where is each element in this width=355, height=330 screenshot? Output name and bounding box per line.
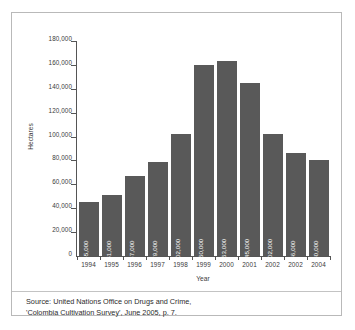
- bar-value-label: 79,000: [151, 240, 158, 259]
- bar-slot: 51,000: [100, 41, 123, 256]
- bar-slot: 79,000: [146, 41, 169, 256]
- x-axis-tick-label: 1994: [77, 261, 100, 268]
- x-axis-tick-label: 1999: [192, 261, 215, 268]
- bar-slot: 102,000: [261, 41, 284, 256]
- bar[interactable]: 163,000: [217, 61, 237, 256]
- bar-slot: 163,000: [215, 41, 238, 256]
- x-axis-tick-label: 2004: [307, 261, 330, 268]
- bar[interactable]: 160,000: [194, 65, 214, 256]
- bar-value-label: 45,000: [82, 240, 89, 259]
- bar-slot: 45,000: [77, 41, 100, 256]
- y-axis-tick-mark: [71, 89, 76, 90]
- y-axis-tick-label: 80,000: [52, 154, 72, 161]
- bar[interactable]: 86,000: [286, 153, 306, 256]
- y-axis-tick-mark: [71, 113, 76, 114]
- y-axis-tick-mark: [71, 41, 76, 42]
- y-axis-tick-label: 0: [68, 250, 72, 257]
- bar-value-label: 86,000: [289, 240, 296, 259]
- bar-value-label: 160,000: [197, 239, 204, 262]
- x-axis-tick-label: 2002: [284, 261, 307, 268]
- y-axis-tick-label: 60,000: [52, 178, 72, 185]
- x-axis-tick-mark: [330, 256, 331, 260]
- x-axis-tick-mark: [192, 256, 193, 260]
- bar-slot: 67,000: [123, 41, 146, 256]
- y-axis-tick-label: 120,000: [49, 107, 72, 114]
- source-note: Source: United Nations Office on Drugs a…: [26, 296, 326, 318]
- x-axis-tick-label: 2000: [215, 261, 238, 268]
- bar-value-label: 67,000: [128, 240, 135, 259]
- x-axis-tick-mark: [261, 256, 262, 260]
- bar[interactable]: 67,000: [125, 176, 145, 256]
- bar-slot: 80,000: [307, 41, 330, 256]
- y-axis-tick-label: 160,000: [49, 59, 72, 66]
- bar-series: 45,00051,00067,00079,000102,000160,00016…: [77, 41, 330, 256]
- x-axis-tick-mark: [238, 256, 239, 260]
- y-axis-tick-mark: [71, 65, 76, 66]
- y-axis-tick-label: 40,000: [52, 202, 72, 209]
- x-axis-tick-mark: [169, 256, 170, 260]
- x-axis-tick-mark: [146, 256, 147, 260]
- bar[interactable]: 102,000: [171, 134, 191, 256]
- bar-slot: 102,000: [169, 41, 192, 256]
- bar-value-label: 102,000: [266, 239, 273, 262]
- bar[interactable]: 102,000: [263, 134, 283, 256]
- y-axis-tick-label: 100,000: [49, 131, 72, 138]
- bar-slot: 145,000: [238, 41, 261, 256]
- source-line-2: 'Colombia Cultivation Survey', June 2005…: [26, 307, 326, 318]
- y-axis-tick-mark: [71, 208, 76, 209]
- y-axis-tick-mark: [71, 160, 76, 161]
- source-line-1: Source: United Nations Office on Drugs a…: [26, 296, 326, 307]
- bar-value-label: 80,000: [312, 240, 319, 259]
- x-axis-tick-label: 2002: [261, 261, 284, 268]
- y-axis-title: Hectares: [27, 107, 34, 167]
- x-axis-tick-mark: [77, 256, 78, 260]
- bar[interactable]: 80,000: [309, 160, 329, 256]
- plot-area: Hectares 020,00040,00060,00080,000100,00…: [12, 13, 343, 275]
- x-axis-tick-label: 1996: [123, 261, 146, 268]
- x-axis-title: Year: [76, 275, 330, 282]
- x-axis-tick-mark: [123, 256, 124, 260]
- y-axis-tick-mark: [71, 232, 76, 233]
- y-axis-tick-label: 180,000: [49, 35, 72, 42]
- bar-slot: 86,000: [284, 41, 307, 256]
- bar-value-label: 102,000: [174, 239, 181, 262]
- bar[interactable]: 51,000: [102, 195, 122, 256]
- bar[interactable]: 145,000: [240, 83, 260, 256]
- x-axis-tick-label: 1997: [146, 261, 169, 268]
- x-axis-tick-mark: [284, 256, 285, 260]
- x-axis-tick-label: 2001: [238, 261, 261, 268]
- bar-value-label: 145,000: [243, 239, 250, 262]
- x-axis-tick-label: 1998: [169, 261, 192, 268]
- bar[interactable]: 45,000: [79, 202, 99, 256]
- x-axis-tick-mark: [307, 256, 308, 260]
- y-axis-tick-mark: [71, 184, 76, 185]
- y-axis-tick-mark: [71, 137, 76, 138]
- y-axis-tick-label: 20,000: [52, 226, 72, 233]
- bar-value-label: 163,000: [220, 239, 227, 262]
- source-divider: [12, 291, 341, 292]
- x-axis-tick-label: 1995: [100, 261, 123, 268]
- bar-slot: 160,000: [192, 41, 215, 256]
- x-axis-tick-mark: [100, 256, 101, 260]
- bar[interactable]: 79,000: [148, 162, 168, 256]
- y-axis-tick-label: 140,000: [49, 83, 72, 90]
- bar-value-label: 51,000: [105, 240, 112, 259]
- figure-frame: Hectares 020,00040,00060,00080,000100,00…: [11, 12, 342, 316]
- x-axis-tick-mark: [215, 256, 216, 260]
